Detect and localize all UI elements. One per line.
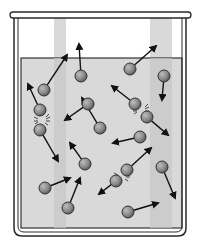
- molecule: [39, 182, 51, 194]
- molecule: [38, 84, 50, 96]
- beaker-diagram: [0, 0, 198, 246]
- molecule: [94, 122, 106, 134]
- molecule: [110, 175, 122, 187]
- molecule: [121, 164, 133, 176]
- molecule: [124, 63, 136, 75]
- molecule: [158, 70, 170, 82]
- molecule: [156, 161, 168, 173]
- molecule: [62, 202, 74, 214]
- molecule: [82, 98, 94, 110]
- glass-highlight-right-liquid: [150, 58, 172, 228]
- molecule: [141, 111, 153, 123]
- glass-highlight-left-liquid: [54, 58, 66, 228]
- beaker-rim: [10, 12, 191, 18]
- molecule: [79, 158, 91, 170]
- molecule: [34, 104, 46, 116]
- molecule: [34, 124, 46, 136]
- molecule: [129, 98, 141, 110]
- molecule: [122, 206, 134, 218]
- molecule: [134, 131, 146, 143]
- molecule: [75, 70, 87, 82]
